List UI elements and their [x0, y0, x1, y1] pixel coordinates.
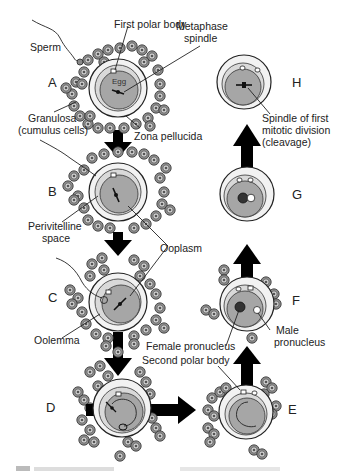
ooplasm	[100, 175, 138, 213]
label-metaphase-spindle-1: Metaphase	[176, 20, 228, 32]
caption-cutoff	[34, 467, 114, 471]
male-pronucleus	[247, 194, 255, 202]
stage-letter-a: A	[48, 75, 57, 90]
second-polar-body	[241, 390, 246, 394]
sperm-head	[77, 59, 83, 65]
label-perivitelline-1: Perivitelline	[28, 220, 82, 232]
fertilization-diagram: Egg	[0, 0, 344, 471]
second-polar-body	[116, 392, 121, 396]
label-spindle-cleavage-1: Spindle of first	[262, 112, 329, 124]
second-polar-body	[240, 66, 245, 70]
first-polar-body	[248, 178, 253, 182]
second-polar-body	[236, 287, 241, 291]
label-granulosa-2: (cumulus cells)	[18, 124, 88, 136]
stage-letter-e: E	[288, 402, 297, 417]
label-female-pronucleus: Female pronucleus	[146, 340, 235, 352]
stage-g	[220, 167, 274, 221]
ooplasm	[229, 398, 265, 434]
caption-cutoff	[180, 467, 280, 471]
stage-letter-h: H	[292, 75, 301, 90]
label-spindle-cleavage-3: (cleavage)	[262, 136, 311, 148]
label-oolemma: Oolemma	[34, 334, 80, 346]
labels: Sperm First polar body Metaphase spindle…	[18, 18, 330, 366]
stage-letter-d: D	[46, 400, 55, 415]
caption-marker	[16, 466, 30, 471]
stage-letter-g: G	[292, 187, 302, 202]
first-polar-body	[255, 68, 260, 72]
label-spindle-cleavage-2: mitotic division	[262, 124, 330, 136]
label-metaphase-spindle-2: spindle	[184, 32, 217, 44]
label-male-pronucleus-1: Male	[276, 324, 299, 336]
first-polar-body	[248, 286, 253, 290]
label-male-pronucleus-2: pronucleus	[274, 336, 325, 348]
arrow-e-to-f	[233, 346, 261, 386]
female-pronucleus	[235, 302, 245, 312]
first-polar-body	[111, 173, 116, 177]
ooplasm	[105, 393, 143, 431]
stage-letter-c: C	[48, 290, 57, 305]
female-pronucleus	[238, 193, 248, 203]
second-polar-body	[237, 178, 242, 182]
label-sperm: Sperm	[30, 41, 61, 53]
male-pronucleus	[254, 307, 261, 314]
label-zona-pellucida: Zona pellucida	[134, 130, 202, 142]
label-second-polar-body: Second polar body	[142, 354, 230, 366]
stage-d	[73, 361, 165, 461]
stage-letter-b: B	[48, 184, 57, 199]
arrow-b-to-c	[104, 232, 132, 256]
label-ooplasm: Ooplasm	[160, 242, 202, 254]
first-polar-body	[252, 391, 257, 395]
stage-h	[217, 55, 271, 114]
label-granulosa-1: Granulosa	[28, 112, 77, 124]
label-perivitelline-2: space	[42, 232, 70, 244]
first-polar-body	[106, 290, 111, 294]
egg-label: Egg	[112, 77, 126, 86]
stage-letter-f: F	[292, 293, 300, 308]
